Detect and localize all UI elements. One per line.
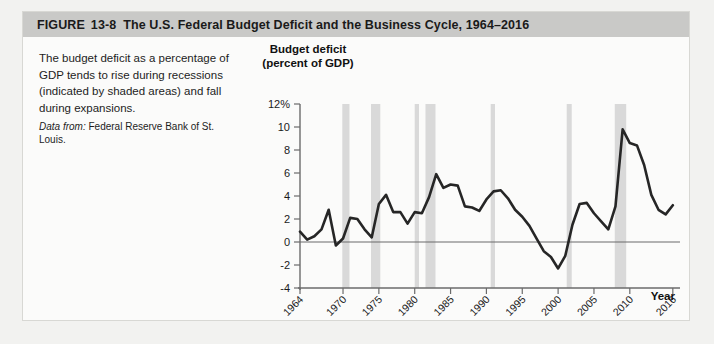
x-axis-tick-label: 2010 [610,293,635,317]
caption-source-label: Data from: [39,121,86,132]
recession-band [567,104,572,288]
y-axis-tick-label: 12% [268,98,290,110]
recession-band [415,104,419,288]
x-axis-tick-label: 1980 [395,293,420,317]
x-axis-tick-label: 1970 [323,293,348,317]
x-axis-tick-label: 2005 [574,293,599,317]
y-axis-tick-label: 6 [284,167,290,179]
recession-band [342,104,349,288]
y-axis-tick-label: 2 [284,213,290,225]
caption-source: Data from: Federal Reserve Bank of St. L… [39,120,229,146]
y-axis-tick-label: 8 [284,144,290,156]
x-axis-tick-label: 1975 [359,293,384,317]
figure-header-text: FIGURE13-8The U.S. Federal Budget Defici… [23,18,529,32]
x-axis-tick-label: 1995 [503,293,528,317]
caption-text: The budget deficit as a percentage of GD… [39,50,229,116]
y-axis-tick-label: -4 [280,282,290,294]
x-axis-tick-label: 1990 [467,293,492,317]
recession-band [371,104,380,288]
recession-band [491,104,495,288]
x-axis-tick-label: 1964 [280,293,305,317]
x-axis-tick-label: 1985 [431,293,456,317]
y-axis-tick-label: 10 [278,121,290,133]
y-axis-tick-label: -2 [280,259,290,271]
y-axis-tick-label: 4 [284,190,290,202]
figure-card: FIGURE13-8The U.S. Federal Budget Defici… [22,11,690,321]
figure-header-bar: FIGURE13-8The U.S. Federal Budget Defici… [23,12,689,37]
deficit-line-chart: 12%1086420-2-419641970197519801985199019… [228,42,683,317]
y-axis-tick-label: 0 [284,236,290,248]
x-axis-tick-label: 2000 [539,293,564,317]
figure-label: FIGURE [37,18,85,32]
figure-title: The U.S. Federal Budget Deficit and the … [123,18,529,32]
chart-area: Budget deficit (percent of GDP) 12%10864… [228,42,683,317]
x-axis-title: Year [651,290,675,302]
figure-number: 13-8 [91,18,116,32]
caption-block: The budget deficit as a percentage of GD… [39,50,229,146]
